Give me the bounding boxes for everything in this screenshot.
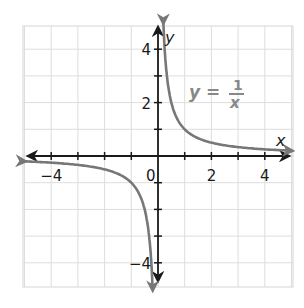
reciprocal-function-graph: −42442−4 x y 0 y = 1 x — [0, 0, 304, 308]
curve-branch-positive — [163, 23, 291, 151]
equation-denominator: x — [229, 94, 241, 112]
y-tick-label: 4 — [141, 41, 151, 59]
axes — [28, 27, 289, 281]
origin-label: 0 — [146, 167, 156, 185]
x-tick-label: −4 — [40, 167, 62, 185]
y-axis-label: y — [164, 28, 175, 47]
x-tick-label: 4 — [260, 167, 270, 185]
x-tick-label: 2 — [207, 167, 217, 185]
y-tick-label: 2 — [141, 95, 151, 113]
y-tick-label: −4 — [129, 255, 151, 273]
equation-numerator: 1 — [233, 77, 243, 93]
x-axis-label: x — [275, 131, 286, 150]
equation-annotation: y = 1 x — [189, 77, 244, 112]
equation-lhs: y = — [189, 82, 220, 102]
